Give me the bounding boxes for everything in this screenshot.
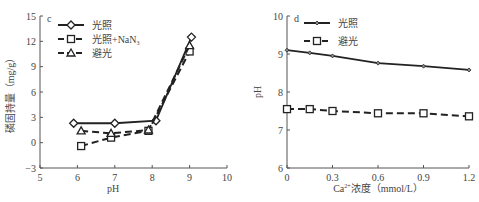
data-point-marker (187, 33, 195, 41)
legend-swatch-marker (67, 21, 75, 29)
chart-c-phosphorus-retention: 5678910−303691215c光照光照+NaN3避光pH磷固持量（mg/g… (0, 0, 240, 202)
y-tick-label: 8 (278, 87, 283, 98)
series-0 (70, 33, 196, 127)
x-axis-label: Ca2+浓度（mmol/L） (333, 182, 423, 194)
y-tick-label: 3 (31, 112, 36, 123)
x-tick-label: 0 (285, 172, 290, 183)
data-point-marker (70, 119, 78, 127)
panel-label: c (47, 13, 52, 24)
legend-swatch-marker (68, 36, 75, 43)
x-tick-label: 7 (112, 172, 117, 183)
data-point-marker (78, 143, 85, 150)
series-0 (285, 48, 471, 72)
data-point-marker (285, 48, 289, 52)
x-tick-label: 8 (150, 172, 155, 183)
data-point-marker (466, 113, 473, 120)
legend-label: 避光 (92, 47, 112, 59)
y-tick-label: 0 (31, 137, 36, 148)
y-axis-label: 磷固持量（mg/g） (4, 53, 16, 134)
data-point-marker (331, 54, 335, 58)
legend-swatch-marker (314, 38, 321, 45)
x-tick-label: 0.3 (326, 172, 339, 183)
series-line (287, 50, 469, 70)
y-tick-label: 10 (273, 11, 283, 22)
data-point-marker (111, 119, 119, 127)
legend: 光照避光 (304, 17, 358, 47)
panel-label: d (294, 13, 299, 24)
data-point-marker (375, 110, 382, 117)
series-1 (284, 106, 473, 120)
y-tick-label: 15 (26, 11, 36, 22)
data-point-marker (306, 106, 313, 113)
x-tick-label: 10 (222, 172, 232, 183)
x-axis-label: pH (107, 183, 119, 194)
y-tick-label: 12 (26, 36, 36, 47)
legend-label: 光照+NaN3 (92, 33, 140, 46)
data-point-marker (308, 51, 312, 55)
chart-c-svg: 5678910−303691215c光照光照+NaN3避光pH磷固持量（mg/g… (0, 0, 240, 202)
y-tick-label: −3 (25, 163, 36, 174)
y-tick-label: 7 (278, 125, 283, 136)
legend: 光照光照+NaN3避光 (58, 19, 140, 59)
legend-label: 避光 (338, 35, 358, 47)
chart-d-svg: 00.30.60.91.2678910d光照避光Ca2+浓度（mmol/L）pH (240, 0, 479, 202)
x-tick-label: 0.9 (417, 172, 430, 183)
data-point-marker (422, 64, 426, 68)
x-tick-label: 9 (187, 172, 192, 183)
legend-label: 光照 (338, 17, 358, 29)
y-axis-label: pH (252, 86, 263, 98)
data-point-marker (284, 106, 291, 113)
legend-label: 光照 (92, 19, 112, 31)
y-tick-label: 6 (278, 163, 283, 174)
data-point-marker (420, 110, 427, 117)
legend-swatch-marker (315, 21, 319, 25)
data-point-marker (467, 68, 471, 72)
series-1 (78, 48, 193, 150)
data-point-marker (329, 108, 336, 115)
y-tick-label: 9 (278, 49, 283, 60)
y-tick-label: 6 (31, 87, 36, 98)
x-tick-label: 6 (75, 172, 80, 183)
x-tick-label: 1.2 (463, 172, 476, 183)
x-tick-label: 0.6 (372, 172, 385, 183)
axes: 00.30.60.91.2678910 (273, 11, 475, 184)
chart-d-ph-vs-calcium: 00.30.60.91.2678910d光照避光Ca2+浓度（mmol/L）pH (240, 0, 479, 202)
data-point-marker (376, 61, 380, 65)
x-tick-label: 5 (38, 172, 43, 183)
y-tick-label: 9 (31, 61, 36, 72)
data-point-marker (186, 42, 194, 49)
